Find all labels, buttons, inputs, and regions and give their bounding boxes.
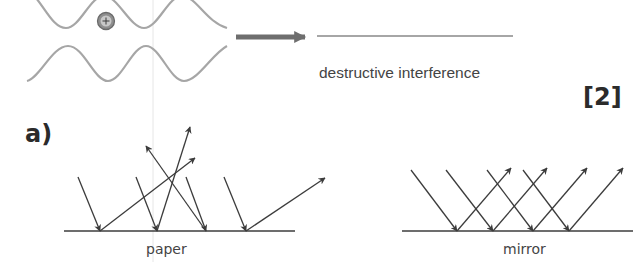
wave-top [36,0,227,28]
mirror-incident-ray-arrow-icon [446,170,493,231]
mirror-incident-ray-arrow-icon [411,170,457,231]
mirror-label: mirror [503,241,546,257]
mirror-reflected-ray-arrow-icon [457,168,511,231]
paper-reflected-ray-arrow-icon [246,178,325,231]
paper-incident-ray-arrow-icon [136,177,157,231]
positive-charge-icon [98,13,115,30]
mirror-reflected-ray-arrow-icon [533,168,587,231]
paper-incident-ray-arrow-icon [186,177,206,231]
part-label: a) [25,120,52,148]
paper-rays [78,127,325,231]
paper-incident-ray-arrow-icon [78,177,100,231]
paper-reflected-ray-arrow-icon [157,127,190,231]
mirror-reflected-ray-arrow-icon [569,168,623,231]
paper-incident-ray-arrow-icon [224,177,246,231]
mirror-incident-ray-arrow-icon [523,170,569,231]
diagram-canvas [0,0,636,262]
mirror-rays [411,168,623,231]
wave-bottom [27,46,227,81]
mirror-reflected-ray-arrow-icon [493,168,547,231]
mirror-incident-ray-arrow-icon [487,170,533,231]
marks-label: [2] [583,83,622,111]
paper-label: paper [146,241,187,257]
destructive-interference-caption: destructive interference [319,64,480,82]
